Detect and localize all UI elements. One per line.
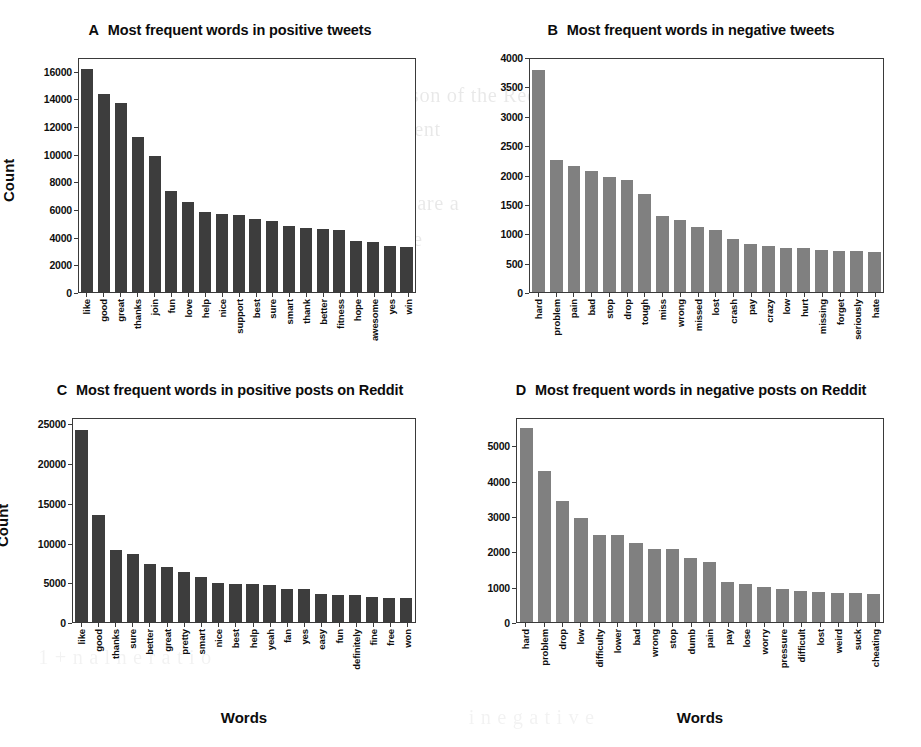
x-tick-mark (654, 623, 655, 627)
bar (400, 247, 412, 292)
bar (283, 226, 295, 292)
bar-slot (281, 59, 298, 292)
bar (115, 103, 127, 292)
y-tick-label: 16000 (44, 66, 72, 78)
panel-title-text: Most frequent words in negative tweets (567, 22, 835, 38)
x-tick: pressure (774, 623, 792, 705)
x-tick-label: good (92, 629, 103, 652)
x-tick: better (141, 623, 158, 705)
bar (629, 543, 642, 622)
y-tick-mark (68, 583, 72, 584)
bar-slot (810, 419, 828, 622)
bar (849, 593, 862, 622)
x-tick-mark (239, 293, 240, 297)
x-tick-label: tough (639, 299, 650, 325)
x-tick-mark (715, 293, 716, 297)
y-tick-mark (68, 504, 72, 505)
x-tick-mark (627, 293, 628, 297)
y-tick-mark (525, 176, 529, 177)
bar (229, 584, 241, 622)
x-axis-ticks-c: likegoodthankssurebettergreatprettysmart… (72, 623, 416, 705)
bar (709, 230, 722, 292)
bar-slot (163, 59, 180, 292)
bar (349, 595, 361, 622)
y-axis-ticks-a: 0200040006000800010000120001400016000 (26, 58, 72, 293)
x-tick-label: hard (532, 299, 543, 319)
x-tick-label: difficulty (593, 629, 604, 668)
x-tick-label: fine (368, 629, 379, 646)
bar (161, 567, 173, 622)
x-tick-mark (764, 623, 765, 627)
x-tick: easy (313, 623, 330, 705)
bar (178, 572, 190, 622)
bar (110, 550, 122, 622)
panel-letter: D (516, 382, 526, 398)
x-tick: love (179, 293, 196, 375)
x-tick: suck (847, 623, 865, 705)
bar-slot (742, 59, 760, 292)
x-tick: definitely (347, 623, 364, 705)
y-tick-label: 1500 (500, 199, 523, 211)
x-tick-mark (339, 623, 340, 627)
bar-slot (773, 419, 791, 622)
bar-slot (846, 419, 864, 622)
bar (281, 589, 293, 622)
x-tick-mark (222, 293, 223, 297)
x-tick-label: lost (814, 629, 825, 646)
y-tick-mark (512, 482, 516, 483)
bar (739, 584, 752, 622)
bar (666, 549, 679, 622)
bar (727, 239, 740, 292)
bar (674, 220, 687, 292)
bar-slot (755, 419, 773, 622)
x-tick-mark (580, 623, 581, 627)
x-tick: hard (516, 623, 534, 705)
bar-slot (777, 59, 795, 292)
bar-slot (210, 419, 227, 622)
x-tick-mark (340, 293, 341, 297)
x-tick-mark (728, 623, 729, 627)
x-tick-label: better (144, 629, 155, 655)
x-tick-label: help (247, 629, 258, 648)
bar-slot (347, 419, 364, 622)
x-tick-mark (253, 623, 254, 627)
y-tick-label: 500 (506, 258, 523, 270)
y-tick-mark (512, 552, 516, 553)
bar (538, 471, 551, 622)
x-tick-mark (184, 623, 185, 627)
y-tick-label: 3000 (500, 111, 523, 123)
bar-slot (365, 59, 382, 292)
y-tick-mark (74, 210, 78, 211)
bar (132, 137, 144, 292)
x-tick: better (315, 293, 332, 375)
bar-slot (264, 59, 281, 292)
bar (263, 585, 275, 622)
x-tick-label: nice (213, 629, 224, 648)
x-tick-label: thanks (132, 299, 143, 329)
x-tick-mark (205, 293, 206, 297)
bar-slot (79, 59, 96, 292)
bar (611, 535, 624, 622)
x-tick-mark (374, 293, 375, 297)
x-tick-label: missed (692, 299, 703, 331)
bar (868, 252, 881, 292)
y-tick-mark (68, 464, 72, 465)
x-tick-label: lose (741, 629, 752, 648)
y-tick-label: 2000 (487, 546, 510, 558)
x-tick: tough (636, 293, 654, 375)
bar (585, 171, 598, 292)
bar (593, 535, 606, 623)
y-tick-mark (525, 264, 529, 265)
bar-slot (146, 59, 163, 292)
x-tick-label: bad (586, 299, 597, 316)
bar (212, 583, 224, 622)
bar-slot (176, 419, 193, 622)
bar (762, 246, 775, 292)
bar (367, 242, 379, 292)
x-tick-label: help (199, 299, 210, 318)
bar (757, 587, 770, 622)
x-tick-mark (149, 623, 150, 627)
x-tick-label: wrong (674, 299, 685, 327)
x-tick-label: smart (196, 629, 207, 654)
y-tick-mark (525, 146, 529, 147)
